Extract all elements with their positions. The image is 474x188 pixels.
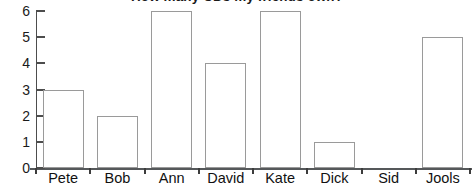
y-tick-label-3: 3 xyxy=(4,83,30,97)
x-label-sid: Sid xyxy=(362,169,416,188)
bar-dick[interactable] xyxy=(314,142,355,168)
y-tick-label-1: 1 xyxy=(4,135,30,149)
bar-kate[interactable] xyxy=(260,11,301,168)
y-tick-label-6: 6 xyxy=(4,4,30,18)
y-axis-labels: 0123456 xyxy=(0,0,30,188)
y-tick-label-4: 4 xyxy=(4,56,30,70)
bar-david[interactable] xyxy=(205,63,246,168)
x-label-bob: Bob xyxy=(90,169,144,188)
bar-chart: How many CDs my friends own? 0123456 Pet… xyxy=(0,0,474,188)
bar-ann[interactable] xyxy=(151,11,192,168)
bar-pete[interactable] xyxy=(43,90,84,169)
x-label-kate: Kate xyxy=(253,169,307,188)
plot-area xyxy=(36,11,470,168)
y-tick-label-5: 5 xyxy=(4,30,30,44)
bar-jools[interactable] xyxy=(422,37,463,168)
bar-bob[interactable] xyxy=(97,116,138,168)
x-label-pete: Pete xyxy=(36,169,90,188)
x-label-jools: Jools xyxy=(416,169,470,188)
x-label-ann: Ann xyxy=(145,169,199,188)
x-label-dick: Dick xyxy=(307,169,361,188)
y-tick-label-2: 2 xyxy=(4,109,30,123)
x-label-david: David xyxy=(199,169,253,188)
x-axis-labels: PeteBobAnnDavidKateDickSidJools xyxy=(0,169,474,188)
chart-title: How many CDs my friends own? xyxy=(0,0,474,4)
